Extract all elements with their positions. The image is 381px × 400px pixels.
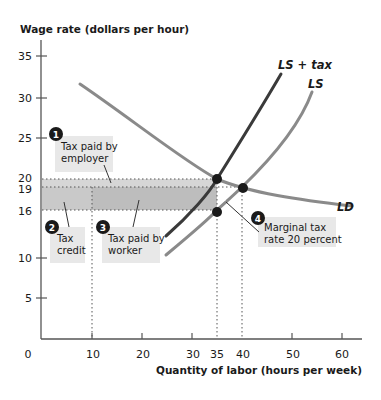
band-tax-credit (42, 187, 92, 210)
labor-market-tax-chart: Wage rate (dollars per hour) 35 30 25 20… (0, 0, 381, 400)
note1-number: 1 (53, 130, 59, 140)
note2-number: 2 (49, 223, 55, 233)
ls-tax-curve (166, 74, 281, 236)
note3-line1: Tax paid by (107, 233, 165, 244)
note4-line1: Marginal tax (264, 222, 326, 233)
note2-line2: credit (57, 245, 86, 256)
note4-line2: rate 20 percent (264, 234, 342, 245)
note1-line2: employer (61, 153, 109, 164)
shaded-regions (42, 179, 217, 210)
y-label-19: 19 (18, 183, 32, 196)
x-label-30: 30 (186, 348, 200, 361)
y-label-25: 25 (18, 132, 32, 145)
annotation-marginal-rate: 4 Marginal tax rate 20 percent (226, 202, 342, 247)
point-35-20 (212, 174, 222, 184)
x-label-10: 10 (86, 348, 100, 361)
point-35-16 (212, 207, 222, 217)
x-label-50: 50 (286, 348, 300, 361)
y-label-5: 5 (25, 292, 32, 305)
x-label-35: 35 (210, 348, 224, 361)
ls-label: LS (308, 77, 324, 91)
ls-tax-label: LS + tax (278, 58, 333, 72)
y-label-30: 30 (18, 92, 32, 105)
note3-number: 3 (100, 223, 106, 233)
band-employer-tax (42, 179, 217, 187)
y-label-35: 35 (18, 50, 32, 63)
ld-label: LD (337, 200, 354, 214)
y-label-10: 10 (18, 252, 32, 265)
annotation-tax-credit: 2 Tax credit (45, 202, 86, 263)
band-worker-tax (92, 187, 217, 210)
origin-label: 0 (25, 348, 32, 361)
note2-line1: Tax (56, 233, 74, 244)
x-label-40: 40 (236, 348, 250, 361)
x-label-20: 20 (136, 348, 150, 361)
x-axis-title: Quantity of labor (hours per week) (156, 364, 362, 376)
annotation-employer-tax: 1 Tax paid by employer (49, 127, 118, 183)
note3-line2: worker (108, 245, 143, 256)
note1-line1: Tax paid by (60, 141, 118, 152)
y-label-16: 16 (18, 205, 32, 218)
note4-number: 4 (255, 214, 261, 224)
x-tick-labels: 0 10 20 30 35 40 50 60 (25, 348, 350, 361)
point-40-19 (238, 183, 248, 193)
y-tick-labels: 35 30 25 20 19 16 10 5 (18, 50, 32, 305)
x-label-60: 60 (335, 348, 349, 361)
y-axis-title: Wage rate (dollars per hour) (20, 23, 189, 35)
